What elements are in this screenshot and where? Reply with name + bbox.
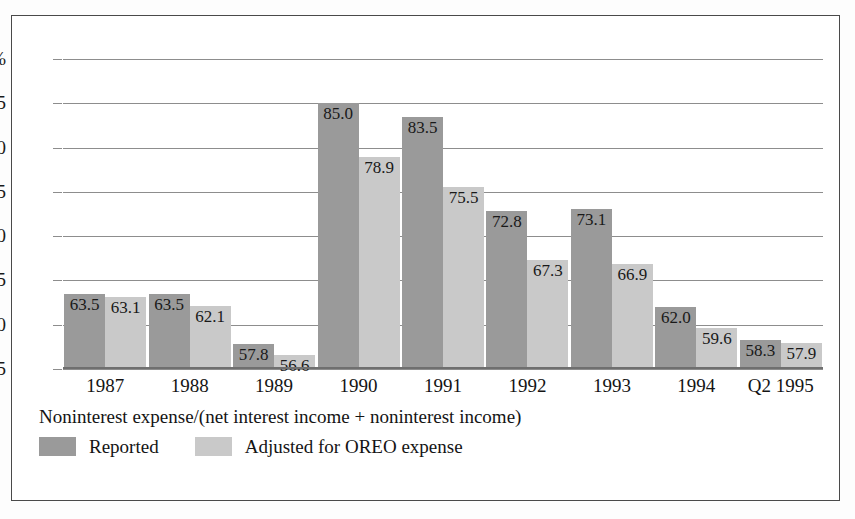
y-axis-tick-mark <box>53 103 62 104</box>
y-axis-tick-mark <box>53 325 62 326</box>
bar-value-label: 75.5 <box>449 189 479 206</box>
bar-group: 63.563.1 <box>64 59 146 369</box>
y-axis-tick-label: 75 <box>0 182 6 201</box>
bar-reported[interactable]: 62.0 <box>655 307 696 369</box>
bar-value-label: 57.8 <box>239 346 269 363</box>
bar-value-label: 72.8 <box>492 213 522 230</box>
x-axis-tick-label: Q2 1995 <box>721 375 841 396</box>
bar-value-label: 78.9 <box>364 159 394 176</box>
y-axis-tick-mark <box>53 148 62 149</box>
bar-value-label: 63.5 <box>154 296 184 313</box>
y-axis-tick-label: 65 <box>0 270 6 289</box>
bar-group: 62.059.6 <box>655 59 737 369</box>
bar-value-label: 73.1 <box>577 211 607 228</box>
bar-group: 72.867.3 <box>486 59 568 369</box>
gridline <box>63 369 823 370</box>
legend-item-adjusted: Adjusted for OREO expense <box>195 437 463 456</box>
x-axis-line <box>63 367 823 369</box>
bar-reported[interactable]: 83.5 <box>402 117 443 369</box>
bar-value-label: 66.9 <box>618 266 648 283</box>
bar-reported[interactable]: 63.5 <box>64 294 105 369</box>
bar-value-label: 63.5 <box>70 296 100 313</box>
bar-group: 85.078.9 <box>318 59 400 369</box>
bar-value-label: 56.6 <box>280 357 310 374</box>
legend-label-reported: Reported <box>89 437 159 456</box>
bar-group: 57.856.6 <box>233 59 315 369</box>
legend-swatch-adjusted <box>195 437 232 456</box>
y-axis-tick-label: 85 <box>0 93 6 112</box>
chart-legend: Reported Adjusted for OREO expense <box>39 434 463 458</box>
bar-group: 83.575.5 <box>402 59 484 369</box>
bar-value-label: 63.1 <box>111 299 141 316</box>
bar-value-label: 83.5 <box>408 119 438 136</box>
bar-reported[interactable]: 58.3 <box>740 340 781 369</box>
y-axis-tick-mark <box>53 236 62 237</box>
bar-adjusted[interactable]: 59.6 <box>696 328 737 369</box>
bar-value-label: 85.0 <box>323 105 353 122</box>
bar-adjusted[interactable]: 66.9 <box>612 264 653 369</box>
legend-item-reported: Reported <box>39 437 159 456</box>
y-axis-tick-label: 80 <box>0 138 6 157</box>
chart-caption: Noninterest expense/(net interest income… <box>39 406 521 428</box>
bar-reported[interactable]: 63.5 <box>149 294 190 369</box>
bar-reported[interactable]: 85.0 <box>318 103 359 369</box>
bar-reported[interactable]: 57.8 <box>233 344 274 369</box>
y-axis-tick-mark <box>53 192 62 193</box>
y-axis-tick-label: 70 <box>0 226 6 245</box>
bar-adjusted[interactable]: 62.1 <box>190 306 231 369</box>
chart-figure: 90%85807570655055 63.563.163.562.157.856… <box>11 15 840 501</box>
bar-adjusted[interactable]: 75.5 <box>443 187 484 369</box>
bar-value-label: 62.1 <box>195 308 225 325</box>
bar-value-label: 58.3 <box>745 342 775 359</box>
bar-group: 73.166.9 <box>571 59 653 369</box>
bar-adjusted[interactable]: 78.9 <box>359 157 400 369</box>
bar-value-label: 67.3 <box>533 262 563 279</box>
bar-value-label: 59.6 <box>702 330 732 347</box>
bar-group: 58.357.9 <box>740 59 822 369</box>
legend-swatch-reported <box>39 437 76 456</box>
bar-adjusted[interactable]: 57.9 <box>781 343 822 369</box>
y-axis-tick-mark <box>53 369 62 370</box>
y-axis-tick-label: 50 <box>0 315 6 334</box>
plot-area: 90%85807570655055 63.563.163.562.157.856… <box>63 59 823 369</box>
bar-group: 63.562.1 <box>149 59 231 369</box>
bar-value-label: 62.0 <box>661 309 691 326</box>
y-axis-tick-mark <box>53 280 62 281</box>
bar-series-container: 63.563.163.562.157.856.685.078.983.575.5… <box>63 59 823 369</box>
legend-label-adjusted: Adjusted for OREO expense <box>245 437 463 456</box>
bar-reported[interactable]: 72.8 <box>486 211 527 369</box>
y-axis-tick-label: 55 <box>0 359 6 378</box>
bar-reported[interactable]: 73.1 <box>571 209 612 369</box>
bar-adjusted[interactable]: 63.1 <box>105 297 146 369</box>
bar-value-label: 57.9 <box>786 345 816 362</box>
bar-adjusted[interactable]: 67.3 <box>527 260 568 369</box>
y-axis-tick-label: 90% <box>0 49 6 68</box>
y-axis-tick-mark <box>53 59 62 60</box>
